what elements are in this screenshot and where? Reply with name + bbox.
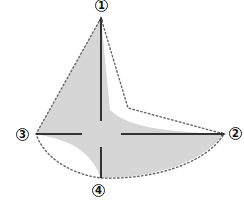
arrow-tip-1 (99, 16, 103, 21)
point-label-4: 4 (92, 184, 105, 197)
diagram: 1 2 3 4 (0, 0, 244, 206)
diagram-canvas (0, 0, 244, 206)
shaded-region (36, 18, 224, 178)
point-label-2: 2 (229, 127, 242, 140)
point-label-3: 3 (16, 128, 29, 141)
